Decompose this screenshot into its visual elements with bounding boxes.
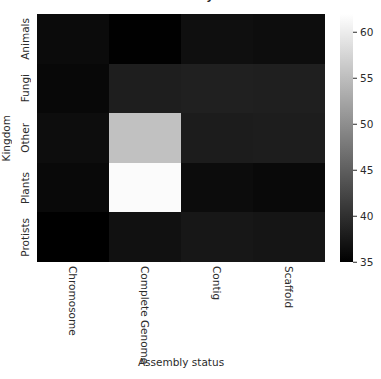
colorbar-tick-55: 55 bbox=[353, 73, 373, 84]
y-axis-tick-label: Other bbox=[19, 123, 31, 153]
heatmap-cell bbox=[37, 14, 109, 64]
colorbar-tick-label: 55 bbox=[360, 73, 373, 84]
x-axis-tick-label: Scaffold bbox=[283, 266, 295, 308]
y-axis-tick-label: Protists bbox=[19, 218, 31, 257]
colorbar-tick-label: 40 bbox=[360, 211, 373, 222]
x-axis-tick-label: Complete Genome bbox=[139, 266, 151, 364]
heatmap-cell bbox=[37, 163, 109, 213]
colorbar-tick-mark bbox=[353, 32, 357, 33]
colorbar-tick-mark bbox=[353, 124, 357, 125]
y-axis-tick-fungi: Fungi bbox=[19, 64, 31, 114]
heatmap-cell bbox=[109, 113, 181, 163]
colorbar-tick-mark bbox=[353, 78, 357, 79]
x-axis-tick-label: Contig bbox=[211, 266, 223, 300]
heatmap-cell bbox=[181, 14, 253, 64]
colorbar-tick-50: 50 bbox=[353, 119, 373, 130]
heatmap-cell bbox=[253, 113, 325, 163]
y-axis-tick-plants: Plants bbox=[19, 163, 31, 213]
heatmap-cell bbox=[253, 212, 325, 262]
colorbar-tick-label: 45 bbox=[360, 165, 373, 176]
colorbar-tick-45: 45 bbox=[353, 165, 373, 176]
heatmap-cell bbox=[253, 64, 325, 114]
x-axis-tick-contig: Contig bbox=[181, 266, 253, 300]
x-axis-tick-label: Chromosome bbox=[67, 266, 79, 336]
colorbar-tick-label: 50 bbox=[360, 119, 373, 130]
chart-title: in each assembly status bbox=[37, 0, 325, 3]
heatmap-cell bbox=[109, 163, 181, 213]
heatmap-cell bbox=[181, 212, 253, 262]
heatmap-cell bbox=[37, 113, 109, 163]
colorbar-tick-mark bbox=[353, 216, 357, 217]
colorbar-tick-35: 35 bbox=[353, 257, 373, 268]
y-axis-label-text: Kingdom bbox=[0, 115, 12, 161]
colorbar-tick-mark bbox=[353, 170, 357, 171]
heatmap-cell bbox=[181, 163, 253, 213]
colorbar-tick-labels: 354045505560 bbox=[353, 14, 381, 262]
heatmap-cell bbox=[181, 113, 253, 163]
heatmap-cell bbox=[109, 212, 181, 262]
heatmap-cell bbox=[37, 64, 109, 114]
heatmap-cell bbox=[253, 14, 325, 64]
y-axis-tick-protists: Protists bbox=[19, 212, 31, 262]
heatmap-cell bbox=[253, 163, 325, 213]
x-axis-tick-chromosome: Chromosome bbox=[37, 266, 109, 336]
y-axis-tick-label: Fungi bbox=[19, 74, 31, 102]
colorbar-tick-label: 35 bbox=[360, 257, 373, 268]
heatmap-cell bbox=[181, 64, 253, 114]
y-axis-tick-other: Other bbox=[19, 113, 31, 163]
heatmap-plot bbox=[37, 14, 325, 262]
colorbar-gradient bbox=[340, 14, 353, 262]
heatmap-cell bbox=[109, 64, 181, 114]
y-axis-tick-label: Animals bbox=[19, 18, 31, 60]
x-axis-label: Assembly status bbox=[37, 356, 325, 368]
x-axis-tick-complete-genome: Complete Genome bbox=[109, 266, 181, 364]
colorbar bbox=[340, 14, 353, 262]
y-axis-tick-label: Plants bbox=[19, 172, 31, 204]
colorbar-tick-label: 60 bbox=[360, 27, 373, 38]
colorbar-tick-40: 40 bbox=[353, 211, 373, 222]
colorbar-tick-60: 60 bbox=[353, 27, 373, 38]
y-axis-label: Kingdom bbox=[0, 14, 12, 262]
y-axis-tick-animals: Animals bbox=[19, 14, 31, 64]
heatmap-cell bbox=[37, 212, 109, 262]
x-axis-tick-scaffold: Scaffold bbox=[253, 266, 325, 308]
colorbar-tick-mark bbox=[353, 262, 357, 263]
heatmap-cell bbox=[109, 14, 181, 64]
x-axis-tick-labels: ChromosomeComplete GenomeContigScaffold bbox=[37, 266, 325, 351]
